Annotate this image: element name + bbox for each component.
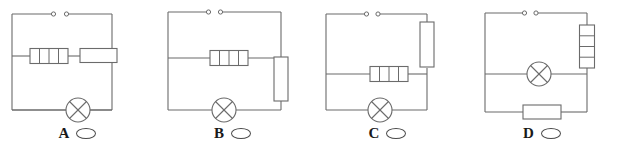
plain-resistor-icon <box>80 49 117 63</box>
lamp-icon <box>368 98 392 122</box>
plain-resistor-icon <box>420 22 434 67</box>
answer-row-a[interactable]: A <box>0 122 155 144</box>
multiple-choice-circuit-figure: A <box>0 0 619 146</box>
lamp-icon <box>527 62 551 86</box>
plain-resistor-icon <box>523 105 561 119</box>
answer-bubble-d[interactable] <box>541 128 561 139</box>
answer-row-c[interactable]: C <box>310 122 465 144</box>
lamp-icon <box>212 98 236 122</box>
switch-terminal-right-icon <box>64 12 68 16</box>
option-letter-a: A <box>59 126 70 141</box>
answer-bubble-c[interactable] <box>386 128 406 139</box>
segmented-resistor-icon <box>370 67 408 82</box>
segmented-resistor-icon <box>210 51 248 66</box>
switch-terminal-left-icon <box>364 12 368 16</box>
answer-row-b[interactable]: B <box>155 122 310 144</box>
circuit-diagram-c <box>310 0 465 124</box>
circuit-option-a[interactable]: A <box>0 0 155 146</box>
switch-terminal-left-icon <box>51 12 55 16</box>
circuit-diagram-d <box>465 0 619 124</box>
switch-terminal-right-icon <box>376 12 380 16</box>
segmented-resistor-icon <box>30 49 68 64</box>
answer-row-d[interactable]: D <box>465 122 619 144</box>
switch-terminal-right-icon <box>218 10 222 14</box>
option-letter-b: B <box>214 126 224 141</box>
answer-bubble-a[interactable] <box>76 128 96 139</box>
circuit-option-c[interactable]: C <box>310 0 465 146</box>
circuit-option-d[interactable]: D <box>465 0 619 146</box>
option-letter-d: D <box>523 126 534 141</box>
segmented-resistor-icon <box>580 25 595 68</box>
circuit-diagram-a <box>0 0 155 124</box>
circuit-option-b[interactable]: B <box>155 0 310 146</box>
plain-resistor-icon <box>274 57 288 101</box>
answer-bubble-b[interactable] <box>231 128 251 139</box>
switch-terminal-left-icon <box>206 10 210 14</box>
switch-terminal-right-icon <box>534 11 538 15</box>
option-letter-c: C <box>369 126 380 141</box>
circuit-diagram-b <box>155 0 310 124</box>
switch-terminal-left-icon <box>522 11 526 15</box>
lamp-icon <box>66 98 90 122</box>
